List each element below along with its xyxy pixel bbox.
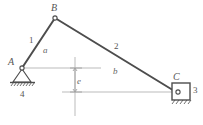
link-1-crank — [22, 18, 55, 68]
mechanism-drawing — [0, 0, 203, 125]
link-2-coupler — [55, 18, 176, 92]
link-label-2: 2 — [114, 42, 119, 51]
joint-label-a: A — [8, 57, 14, 67]
joint-label-c: C — [173, 72, 180, 82]
joint-label-b: B — [51, 3, 57, 13]
dimension-label-e: e — [77, 77, 81, 86]
reference-lines — [22, 57, 178, 116]
body-label-4: 4 — [20, 90, 25, 99]
body-label-3: 3 — [193, 86, 198, 95]
links-group — [22, 18, 176, 92]
slider-block-3 — [172, 83, 191, 104]
support-triangle-icon — [13, 69, 31, 82]
slider-body-rect — [172, 83, 190, 100]
pin-joint-b — [53, 16, 57, 20]
link-label-1: 1 — [29, 36, 34, 45]
mechanism-figure: A B C 1 2 a b e 4 3 — [0, 0, 203, 125]
dimension-label-b: b — [113, 67, 118, 76]
dimension-label-a: a — [43, 46, 48, 55]
pivot-joint-a — [20, 66, 24, 70]
slider-pin-joint-c — [176, 90, 180, 94]
ground-support-a — [10, 66, 35, 86]
